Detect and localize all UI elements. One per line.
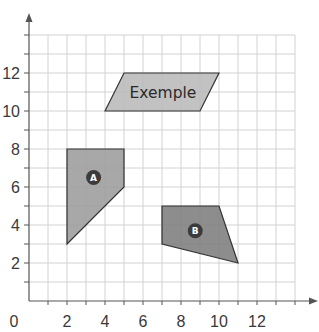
y-tick-label: 2 (11, 255, 20, 272)
x-tick-label: 8 (177, 313, 186, 330)
shape-a: A (67, 149, 124, 244)
y-tick-label: 12 (2, 65, 20, 82)
shape-label: Exemple (130, 84, 197, 102)
x-tick-label: 6 (139, 313, 148, 330)
shape-label: A (90, 173, 97, 183)
x-tick-label: 4 (101, 313, 110, 330)
y-axis-arrow-icon (26, 13, 33, 22)
shape-exemple: Exemple (105, 73, 219, 111)
x-tick-label: 2 (63, 313, 72, 330)
shape-a-polygon (67, 149, 124, 244)
x-tick-label: 12 (248, 313, 266, 330)
shape-label: B (192, 226, 199, 236)
y-tick-label: 4 (11, 217, 20, 234)
y-tick-label: 6 (11, 179, 20, 196)
y-tick-label: 8 (11, 141, 20, 158)
y-tick-label: 10 (2, 103, 20, 120)
x-tick-label: 10 (210, 313, 228, 330)
coordinate-grid-diagram: ExempleAB 02468101224681012 (0, 0, 319, 332)
x-tick-label: 0 (10, 313, 19, 330)
x-axis-arrow-icon (309, 298, 318, 305)
